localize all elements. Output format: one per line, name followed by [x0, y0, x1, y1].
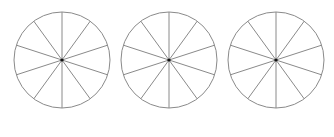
section-divider-line: [276, 60, 322, 75]
section-divider-line: [230, 45, 276, 60]
section-divider-line: [62, 60, 90, 99]
section-divider-line: [141, 21, 169, 60]
fraction-circles-diagram: [0, 0, 334, 137]
circles-group: [14, 12, 324, 108]
section-divider-line: [34, 21, 62, 60]
section-divider-line: [123, 45, 169, 60]
section-divider-line: [230, 60, 276, 75]
section-divider-line: [276, 60, 304, 99]
center-dot: [167, 58, 170, 61]
section-divider-line: [276, 45, 322, 60]
center-dot: [274, 58, 277, 61]
section-divider-line: [169, 21, 197, 60]
section-divider-line: [123, 60, 169, 75]
section-divider-line: [248, 21, 276, 60]
section-divider-line: [34, 60, 62, 99]
section-divider-line: [62, 45, 108, 60]
section-divider-line: [16, 45, 62, 60]
section-divider-line: [276, 21, 304, 60]
section-divider-line: [169, 60, 215, 75]
section-divider-line: [169, 45, 215, 60]
section-divider-line: [62, 60, 108, 75]
section-divider-line: [16, 60, 62, 75]
divided-circle-1: [14, 12, 110, 108]
section-divider-line: [62, 21, 90, 60]
divided-circle-2: [121, 12, 217, 108]
section-divider-line: [169, 60, 197, 99]
divided-circle-3: [228, 12, 324, 108]
section-divider-line: [141, 60, 169, 99]
center-dot: [60, 58, 63, 61]
section-divider-line: [248, 60, 276, 99]
